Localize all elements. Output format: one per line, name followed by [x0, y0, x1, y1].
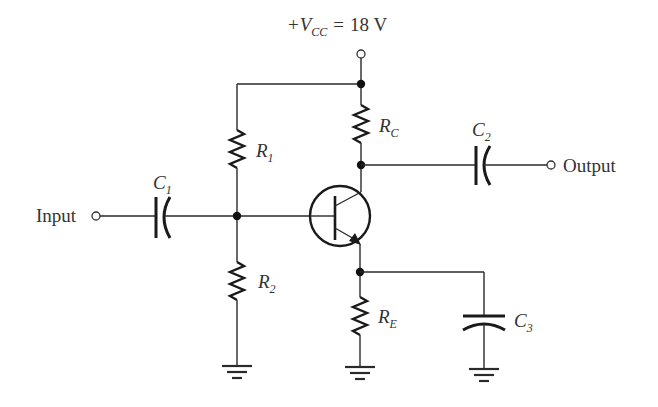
resistor-r1: R1	[230, 130, 274, 262]
svg-text:+VCC=18 V: +VCC=18 V	[288, 14, 387, 39]
rc-label: RC	[378, 115, 400, 140]
ground-icon	[345, 367, 375, 379]
resistor-rc: RC	[354, 105, 400, 186]
r2-label: R2	[257, 271, 276, 296]
output-section: Output C2	[361, 119, 617, 185]
c1-label: C1	[153, 172, 172, 197]
common-emitter-amplifier-schematic: +VCC=18 V R1 R2 Input C1	[0, 0, 658, 407]
vcc-label: +VCC=18 V	[288, 14, 387, 39]
resistor-re: RE	[353, 297, 398, 367]
input-section: Input C1	[36, 172, 310, 238]
resistor-r2: R2	[230, 262, 276, 366]
c2-label: C2	[472, 119, 491, 144]
capacitor-c1-curve	[164, 197, 170, 238]
capacitor-c3: C3	[463, 310, 533, 369]
base-junction-dot	[233, 212, 241, 220]
vcc-terminal	[357, 50, 365, 58]
npn-transistor-icon	[310, 186, 370, 297]
c3-label: C3	[514, 310, 533, 335]
output-label: Output	[563, 155, 617, 176]
r1-label: R1	[255, 140, 274, 165]
input-label: Input	[36, 205, 77, 226]
ground-icon	[469, 369, 499, 381]
input-terminal[interactable]	[92, 212, 100, 220]
vcc-rail	[237, 50, 365, 130]
vcc-junction-dot	[357, 80, 365, 88]
output-terminal[interactable]	[547, 161, 555, 169]
re-label: RE	[377, 306, 398, 331]
ground-icon	[222, 366, 252, 378]
emitter-section	[356, 268, 484, 316]
